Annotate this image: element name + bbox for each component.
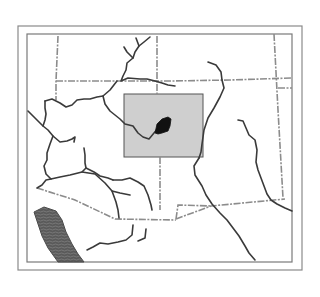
map-canvas: [0, 0, 320, 297]
locator-map: [0, 0, 320, 297]
